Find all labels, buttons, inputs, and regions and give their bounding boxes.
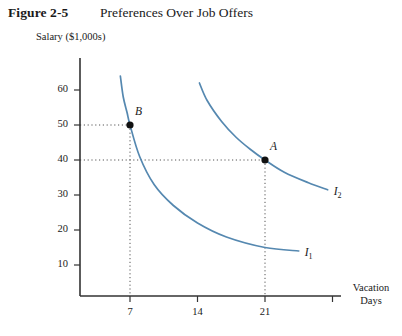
y-tick-label-60: 60 xyxy=(46,83,68,94)
plot-area xyxy=(0,0,402,336)
curve-label-I1: I1 xyxy=(305,246,313,261)
x-tick-label-7: 7 xyxy=(120,306,140,317)
point-label-B: B xyxy=(135,105,142,117)
y-tick-label-50: 50 xyxy=(46,118,68,129)
curve-label-I2: I2 xyxy=(334,185,342,200)
point-marker-A xyxy=(261,156,268,163)
point-marker-B xyxy=(126,121,133,128)
curve-label-subscript: 1 xyxy=(309,252,313,261)
curve-I1 xyxy=(120,76,298,251)
curve-I2 xyxy=(199,83,327,190)
point-markers-layer xyxy=(126,121,268,163)
x-tick-label-21: 21 xyxy=(255,306,275,317)
y-tick-label-30: 30 xyxy=(46,188,68,199)
y-tick-label-10: 10 xyxy=(46,258,68,269)
figure-container: Figure 2-5 Preferences Over Job Offers S… xyxy=(0,0,402,336)
curves-layer xyxy=(120,76,327,251)
y-tick-label-20: 20 xyxy=(46,223,68,234)
x-tick-label-14: 14 xyxy=(188,306,208,317)
y-tick-label-40: 40 xyxy=(46,153,68,164)
point-label-A: A xyxy=(270,140,277,152)
guide-lines-layer xyxy=(80,125,265,296)
curve-label-subscript: 2 xyxy=(338,191,342,200)
